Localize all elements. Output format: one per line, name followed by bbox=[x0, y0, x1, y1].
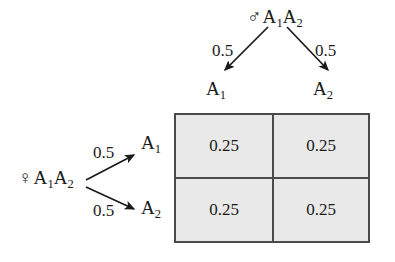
female-parent-genotype: ♀A1A2 bbox=[18, 168, 74, 190]
female-allele-2-subscript: 2 bbox=[68, 177, 74, 191]
column-header-1: A1 bbox=[206, 79, 226, 101]
row-header-1-subscript: 1 bbox=[155, 142, 161, 156]
male-allele-2-subscript: 2 bbox=[297, 16, 303, 30]
row-header-2-subscript: 2 bbox=[155, 207, 161, 221]
male-gamete-1-probability: 0.5 bbox=[212, 42, 233, 59]
column-header-1-label: A bbox=[206, 78, 220, 99]
column-header-2-label: A bbox=[313, 78, 327, 99]
column-header-2-subscript: 2 bbox=[327, 88, 333, 102]
column-header-1-subscript: 1 bbox=[220, 88, 226, 102]
table-cell: 0.25 bbox=[274, 115, 368, 177]
female-gamete-1-probability: 0.5 bbox=[93, 144, 114, 161]
row-header-1: A1 bbox=[141, 133, 161, 155]
table-cell: 0.25 bbox=[274, 179, 368, 241]
column-header-2: A2 bbox=[313, 79, 333, 101]
male-parent-genotype: ♂A1A2 bbox=[247, 7, 303, 29]
female-allele-2: A bbox=[54, 167, 68, 188]
table-cell: 0.25 bbox=[176, 179, 272, 241]
table-cell: 0.25 bbox=[176, 115, 272, 177]
punnett-square-grid: 0.25 0.25 0.25 0.25 bbox=[174, 113, 370, 243]
male-allele-2: A bbox=[283, 6, 297, 27]
female-gamete-2-probability: 0.5 bbox=[93, 202, 114, 219]
row-header-2: A2 bbox=[141, 198, 161, 220]
row-header-2-label: A bbox=[141, 197, 155, 218]
male-allele-1: A bbox=[262, 6, 276, 27]
punnett-square-figure: ♂A1A2 0.5 0.5 A1 A2 ♀A1A2 0.5 0.5 A1 A2 bbox=[0, 0, 395, 262]
female-allele-1: A bbox=[33, 167, 47, 188]
female-symbol: ♀ bbox=[18, 167, 33, 188]
male-gamete-2-probability: 0.5 bbox=[315, 42, 336, 59]
male-symbol: ♂ bbox=[247, 6, 262, 27]
row-header-1-label: A bbox=[141, 132, 155, 153]
